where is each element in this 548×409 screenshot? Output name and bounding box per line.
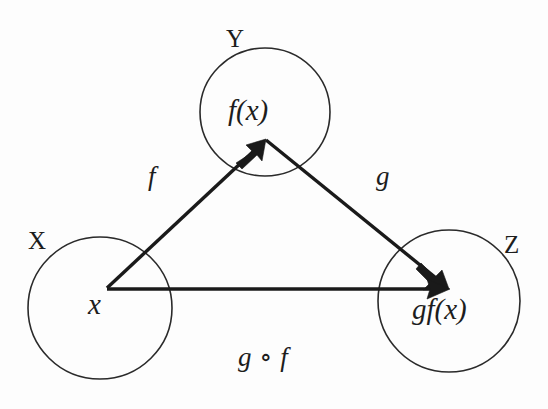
arrow-label-f: f: [148, 163, 156, 190]
function-composition-diagram: X x Y f(x) Z gf(x) f g g ∘ f: [0, 0, 548, 409]
arrow-head-f: [236, 139, 266, 169]
arrow-line-f: [107, 147, 258, 288]
element-label-z: gf(x): [412, 295, 467, 324]
arrow-label-g: g: [376, 163, 390, 190]
element-label-y: f(x): [228, 96, 268, 125]
set-label-z: Z: [504, 232, 519, 257]
composition-label: g ∘ f: [238, 344, 288, 371]
arrow-line-g: [266, 140, 441, 282]
set-label-y: Y: [226, 26, 244, 51]
element-label-x: x: [88, 290, 101, 319]
set-label-x: X: [28, 228, 46, 253]
